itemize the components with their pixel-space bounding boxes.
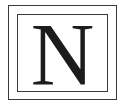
logo-letter: N bbox=[17, 14, 108, 92]
